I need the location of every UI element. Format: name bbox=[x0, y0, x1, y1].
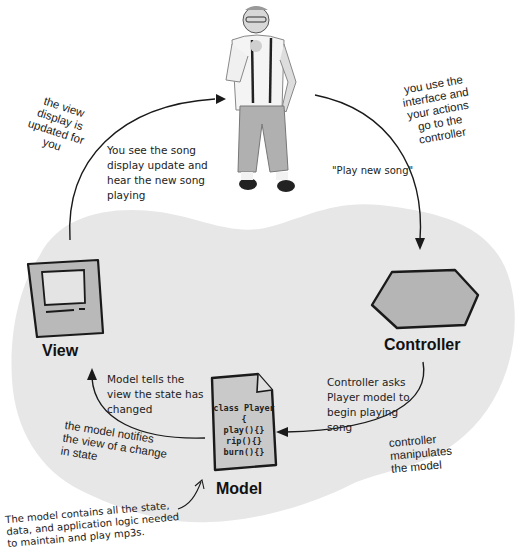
annotation-controller-asks: Controller asks Player model to begin pl… bbox=[327, 375, 427, 435]
arrowhead-icon bbox=[216, 94, 226, 104]
text-line: hear the new song bbox=[107, 173, 237, 188]
text-line: playing bbox=[107, 188, 237, 203]
computer-monitor-icon bbox=[28, 260, 103, 337]
code-line: rip(){} bbox=[212, 436, 276, 447]
annotation-play-new-song: "Play new song" bbox=[332, 163, 413, 178]
text-line: changed bbox=[107, 402, 227, 417]
text-line: Player model to bbox=[327, 390, 427, 405]
text-line: song bbox=[327, 420, 427, 435]
text-line: Model tells the bbox=[107, 372, 227, 387]
annotation-controller-manipulates: controller manipulates the model bbox=[388, 429, 481, 476]
text-line: view the state has bbox=[107, 387, 227, 402]
code-line: burn(){} bbox=[212, 447, 276, 458]
controller-label: Controller bbox=[384, 336, 460, 354]
code-line: play(){} bbox=[212, 425, 276, 436]
text-line: You see the song bbox=[107, 143, 237, 158]
view-label: View bbox=[42, 342, 78, 360]
background-blob bbox=[12, 204, 515, 522]
text-line: Controller asks bbox=[327, 375, 427, 390]
text-line: begin playing bbox=[327, 405, 427, 420]
hexagon-icon bbox=[372, 270, 478, 328]
text-line: display update and bbox=[107, 158, 237, 173]
annotation-see-song: You see the song display update and hear… bbox=[107, 143, 237, 203]
annotation-model-tells-view: Model tells the view the state has chang… bbox=[107, 372, 227, 417]
model-label: Model bbox=[216, 480, 262, 498]
